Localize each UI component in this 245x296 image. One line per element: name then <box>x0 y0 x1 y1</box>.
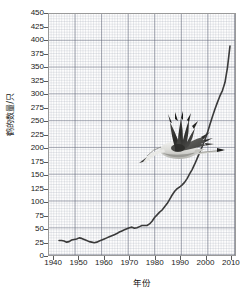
y-tick-label: 425 <box>4 23 44 31</box>
y-tick-label: 400 <box>4 36 44 44</box>
y-tick-label: 100 <box>4 198 44 206</box>
x-tick-label: 1960 <box>95 259 113 267</box>
y-tick-label: 450 <box>4 9 44 17</box>
plot-area <box>48 13 236 256</box>
x-tick-mark <box>53 256 54 260</box>
y-axis-title: 鹤的数量/只 <box>4 80 15 150</box>
y-tick-mark <box>44 162 48 163</box>
crane-population-chart: 0255075100125150175200225250275300325350… <box>0 0 245 296</box>
y-tick-label: 75 <box>4 212 44 220</box>
y-tick-mark <box>44 229 48 230</box>
y-tick-mark <box>44 216 48 217</box>
x-tick-mark <box>180 256 181 260</box>
y-tick-mark <box>44 13 48 14</box>
y-tick-mark <box>44 189 48 190</box>
y-tick-mark <box>44 54 48 55</box>
x-tick-mark <box>206 256 207 260</box>
data-series-line <box>49 14 235 255</box>
y-tick-label: 50 <box>4 225 44 233</box>
y-tick-label: 125 <box>4 185 44 193</box>
x-axis-title: 年份 <box>48 276 236 288</box>
y-tick-mark <box>44 202 48 203</box>
y-tick-mark <box>44 121 48 122</box>
y-tick-mark <box>44 256 48 257</box>
y-tick-label: 175 <box>4 158 44 166</box>
x-tick-label: 2010 <box>222 259 240 267</box>
y-tick-mark <box>44 108 48 109</box>
y-tick-mark <box>44 27 48 28</box>
x-tick-label: 2000 <box>197 259 215 267</box>
y-tick-label: 350 <box>4 63 44 71</box>
x-tick-label: 1950 <box>70 259 88 267</box>
x-tick-label: 1980 <box>146 259 164 267</box>
x-tick-mark <box>104 256 105 260</box>
y-tick-label: 150 <box>4 171 44 179</box>
x-tick-mark <box>129 256 130 260</box>
y-tick-mark <box>44 40 48 41</box>
y-tick-mark <box>44 175 48 176</box>
y-tick-label: 375 <box>4 50 44 58</box>
x-tick-mark <box>155 256 156 260</box>
y-tick-mark <box>44 81 48 82</box>
x-tick-label: 1970 <box>120 259 138 267</box>
x-tick-label: 1990 <box>171 259 189 267</box>
x-tick-mark <box>78 256 79 260</box>
y-tick-mark <box>44 135 48 136</box>
y-tick-mark <box>44 67 48 68</box>
y-tick-mark <box>44 94 48 95</box>
x-axis-tick-labels: 19401950196019701980199020002010 <box>0 259 245 275</box>
y-tick-mark <box>44 148 48 149</box>
x-tick-label: 1940 <box>44 259 62 267</box>
x-tick-mark <box>231 256 232 260</box>
y-tick-mark <box>44 243 48 244</box>
y-tick-label: 25 <box>4 239 44 247</box>
